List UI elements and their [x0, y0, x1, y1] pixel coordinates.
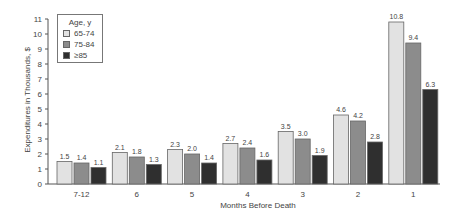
bar-value-label: 1.8	[132, 148, 142, 155]
bar-value-label: 1.3	[149, 156, 159, 163]
bar-value-label: 2.4	[243, 139, 253, 146]
x-axis-label: Months Before Death	[0, 201, 456, 210]
bar	[112, 153, 127, 185]
y-tick-label: 9	[38, 45, 43, 54]
bar-value-label: 9.4	[408, 34, 418, 41]
x-tick-label: 1	[411, 190, 416, 199]
bar	[389, 22, 404, 184]
bar	[91, 168, 106, 185]
bar-value-label: 2.8	[370, 133, 380, 140]
bar	[334, 115, 349, 184]
legend-swatch	[63, 52, 70, 59]
bar	[257, 160, 272, 184]
y-tick-label: 2	[38, 150, 43, 159]
y-tick-label: 8	[38, 60, 43, 69]
bar-value-label: 2.7	[226, 135, 236, 142]
bar-value-label: 1.1	[94, 159, 104, 166]
bar-value-label: 4.2	[353, 112, 363, 119]
bar	[406, 43, 421, 184]
bar	[295, 139, 310, 184]
y-tick-label: 7	[38, 75, 43, 84]
bar-value-label: 1.6	[260, 151, 270, 158]
y-tick-label: 0	[38, 180, 43, 189]
bar	[312, 156, 327, 185]
bar	[168, 150, 183, 185]
legend-item-85-plus: ≥85	[63, 51, 102, 60]
bar	[278, 132, 293, 185]
bar-value-label: 2.1	[115, 144, 125, 151]
y-tick-label: 3	[38, 135, 43, 144]
bar-value-label: 1.4	[204, 154, 214, 161]
bar-value-label: 3.0	[298, 130, 308, 137]
x-tick-label: 6	[135, 190, 140, 199]
bar	[57, 162, 72, 185]
y-tick-label: 4	[38, 120, 43, 129]
legend-label: ≥85	[74, 51, 87, 60]
legend-item-65-74: 65-74	[63, 29, 102, 38]
y-axis-label: Expenditures in Thousands, $	[23, 47, 32, 153]
bar	[146, 165, 161, 185]
bar-value-label: 1.4	[77, 154, 87, 161]
bar	[368, 142, 383, 184]
bar	[240, 148, 255, 184]
y-tick-label: 1	[38, 165, 43, 174]
x-tick-label: 4	[245, 190, 250, 199]
legend: Age, y 65-74 75-84 ≥85	[57, 14, 103, 63]
bar-value-label: 10.8	[389, 13, 403, 20]
y-tick-label: 6	[38, 90, 43, 99]
legend-swatch	[63, 30, 70, 37]
bar	[423, 90, 438, 185]
bar-value-label: 1.5	[60, 153, 70, 160]
x-tick-label: 5	[190, 190, 195, 199]
legend-label: 75-84	[74, 40, 94, 49]
legend-title: Age, y	[58, 18, 102, 27]
bar-value-label: 4.6	[336, 106, 346, 113]
bar-value-label: 3.5	[281, 123, 291, 130]
bar	[223, 144, 238, 185]
legend-item-75-84: 75-84	[63, 40, 102, 49]
x-tick-label: 2	[356, 190, 361, 199]
bar	[185, 154, 200, 184]
y-tick-label: 11	[34, 15, 43, 24]
legend-swatch	[63, 41, 70, 48]
bar	[351, 121, 366, 184]
y-tick-label: 5	[38, 105, 43, 114]
bar	[202, 163, 217, 184]
y-tick-label: 10	[33, 30, 42, 39]
legend-label: 65-74	[74, 29, 94, 38]
bar-value-label: 6.3	[425, 81, 435, 88]
x-tick-label: 7-12	[73, 190, 90, 199]
bar	[74, 163, 89, 184]
bar-value-label: 2.0	[187, 145, 197, 152]
bar-value-label: 1.9	[315, 147, 325, 154]
bar-value-label: 2.3	[170, 141, 180, 148]
bar	[129, 157, 144, 184]
x-tick-label: 3	[300, 190, 305, 199]
